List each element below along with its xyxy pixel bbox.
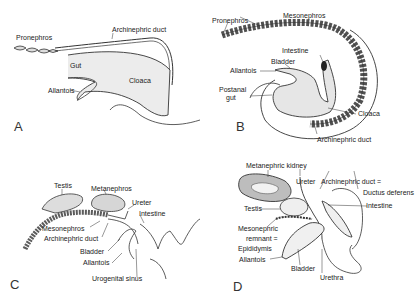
- label-bladder: Bladder: [80, 248, 104, 256]
- label-postanal: Postanal: [219, 86, 246, 94]
- label-postanal-gut: gut: [226, 94, 236, 102]
- label-bladder: Bladder: [291, 265, 315, 273]
- label-pronephros: Pronephros: [212, 17, 248, 25]
- panel-d: Metanephric kidney Ureter Archinephric d…: [210, 149, 420, 298]
- label-ureter: Ureter: [132, 199, 151, 207]
- panel-a-drawing: [0, 0, 210, 149]
- label-testis: Testis: [244, 205, 262, 213]
- label-metanephric-kidney: Metanephric kidney: [246, 162, 307, 170]
- label-allantois: Allantois: [239, 256, 265, 264]
- panel-d-drawing: [210, 149, 420, 298]
- label-metanephros: Metanephros: [91, 185, 132, 193]
- label-intestine: Intestine: [366, 202, 392, 210]
- label-archinephric-duct: Archinephric duct: [44, 235, 98, 243]
- label-archinephric-duct: Archinephric duct: [317, 136, 371, 144]
- label-mesonephros: Mesonephros: [283, 12, 325, 20]
- panel-b: Pronephros Mesonephros Intestine Bladder…: [210, 0, 420, 149]
- label-bladder: Bladder: [271, 58, 295, 66]
- label-archinephric-duct: Archinephric duct =: [321, 178, 381, 186]
- label-intestine: Intestine: [139, 210, 165, 218]
- label-ductus-deferens: Ductus deferens: [363, 189, 414, 197]
- label-ureter: Ureter: [296, 178, 315, 186]
- panel-letter: D: [233, 279, 242, 294]
- label-cloaca: Cloaca: [129, 77, 151, 85]
- label-urethra: Urethra: [320, 274, 343, 282]
- label-cloaca: Cloaca: [358, 110, 380, 118]
- label-allantois: Allantois: [48, 87, 74, 95]
- label-testis: Testis: [54, 182, 72, 190]
- label-pronephros: Pronephros: [16, 34, 52, 42]
- panel-a: Pronephros Archinephric duct Gut Cloaca …: [0, 0, 210, 149]
- panel-letter: B: [236, 119, 245, 134]
- label-allantois: Allantois: [83, 259, 109, 267]
- label-archinephric-duct: Archinephric duct: [112, 26, 166, 34]
- panel-c: Testis Metanephros Ureter Intestine Meso…: [0, 149, 210, 298]
- label-epididymis: Epididymis: [238, 245, 272, 253]
- label-allantois: Allantois: [230, 67, 256, 75]
- label-remnant: remnant =: [246, 235, 278, 243]
- label-mesonephros: Mesonephros: [42, 225, 84, 233]
- label-mesonephric: Mesonephric: [238, 225, 278, 233]
- panel-letter: A: [14, 119, 23, 134]
- panel-letter: C: [10, 277, 19, 292]
- label-gut: Gut: [70, 62, 81, 70]
- label-urogenital-sinus: Urogenital sinus: [92, 275, 142, 283]
- label-intestine: Intestine: [282, 47, 308, 55]
